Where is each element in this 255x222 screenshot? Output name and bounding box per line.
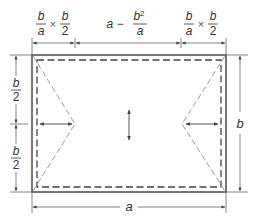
numerator-2: b: [62, 9, 69, 23]
denominator-2: 2: [62, 24, 69, 38]
top-right-dimension-label: b a × b 2: [184, 9, 218, 38]
numerator: b: [186, 9, 193, 23]
plate-diagram: b a × b 2 a − b2 a b a × b 2 b 2: [0, 0, 255, 222]
denominator: a: [38, 24, 45, 38]
numerator: b: [13, 144, 20, 158]
left-lower-half-label: b 2: [11, 144, 21, 172]
multiply-sign: ×: [198, 18, 204, 30]
right-triangular-notch: [182, 56, 225, 191]
numerator: b: [13, 76, 20, 90]
top-left-dimension-label: b a × b 2: [36, 9, 70, 38]
denominator-2: 2: [210, 24, 217, 38]
denominator: a: [186, 24, 193, 38]
denominator: 2: [13, 158, 20, 172]
bottom-dimension-label-a: a: [125, 199, 132, 214]
numerator: b: [38, 9, 45, 23]
left-upper-half-label: b 2: [11, 76, 21, 104]
right-dimension-label-b: b: [236, 116, 243, 131]
prefix-a-minus: a −: [106, 17, 123, 31]
top-dimension-line: [32, 38, 226, 55]
numerator-b-squared: b2: [133, 9, 145, 23]
numerator-2: b: [210, 9, 217, 23]
multiply-sign: ×: [50, 18, 56, 30]
left-triangular-notch: [33, 56, 75, 191]
denominator: 2: [13, 90, 20, 104]
denominator: a: [137, 24, 144, 38]
top-middle-dimension-label: a − b2 a: [106, 9, 147, 38]
